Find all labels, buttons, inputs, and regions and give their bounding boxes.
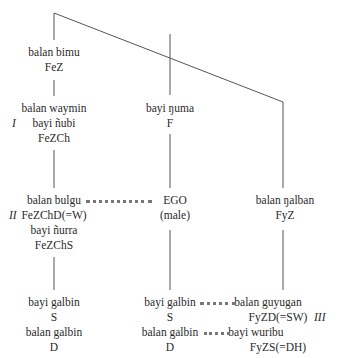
gloss-fezchs: FeZChS xyxy=(35,238,73,253)
gloss-male: (male) xyxy=(160,208,190,223)
gloss-s-left: S xyxy=(51,310,57,325)
gloss-fyzs-dh: FyZS(=DH) xyxy=(250,340,306,355)
term-balan-galbin-left: balan galbin xyxy=(26,325,83,340)
term-balan-waymin: balan waymin xyxy=(22,101,87,116)
marriage-link-galbin-guyugan xyxy=(200,302,236,305)
generation-label-I: I xyxy=(12,116,16,131)
term-bayi-galbin-mid: bayi galbin xyxy=(144,295,195,310)
generation-label-II: II xyxy=(9,208,17,223)
gloss-d-mid: D xyxy=(166,340,174,355)
marriage-link-bulgu-ego xyxy=(86,200,152,203)
gloss-fezchd-w: FeZChD(=W) xyxy=(21,208,86,223)
term-ego: EGO xyxy=(163,193,187,208)
term-bayi-wuribu: bayi wuribu xyxy=(228,325,283,340)
generation-label-III: III xyxy=(314,310,326,325)
gloss-fyz: FyZ xyxy=(275,208,294,223)
line-diagonal xyxy=(54,13,283,102)
term-balan-nalban: balan ŋalban xyxy=(256,193,314,208)
term-balan-bimu: balan bimu xyxy=(28,45,79,60)
term-bayi-numa: bayi ŋuma xyxy=(146,101,194,116)
marriage-link-galbin-wuribu xyxy=(204,332,230,335)
gloss-f: F xyxy=(167,116,173,131)
term-balan-galbin-mid: balan galbin xyxy=(142,325,199,340)
gloss-d-left: D xyxy=(50,340,58,355)
term-bayi-nubi: bayi ñubi xyxy=(32,116,75,131)
term-bayi-nurra: bayi ñurra xyxy=(31,223,78,238)
gloss-fez: FeZ xyxy=(45,60,64,75)
term-balan-guyugan: balan guyugan xyxy=(234,295,301,310)
term-balan-bulgu: balan bulgu xyxy=(27,193,81,208)
gloss-s-mid: S xyxy=(167,310,173,325)
gloss-fyzd-sw: FyZD(=SW) xyxy=(249,310,308,325)
term-bayi-galbin-left: bayi galbin xyxy=(28,295,79,310)
gloss-fezch: FeZCh xyxy=(38,131,70,146)
